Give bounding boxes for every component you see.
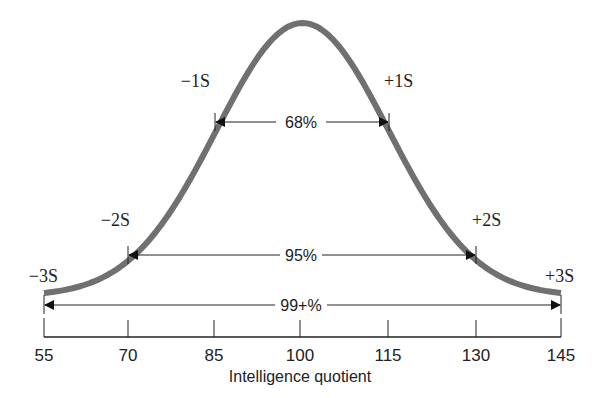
interval-99-label: 99+% xyxy=(280,297,321,314)
x-tick-130: 130 xyxy=(462,346,490,365)
interval-68: 68% xyxy=(215,113,389,131)
x-tick-85: 85 xyxy=(205,346,224,365)
interval-95: 95% xyxy=(128,246,476,264)
x-axis-label: Intelligence quotient xyxy=(229,368,372,385)
sd-label-plus-2: +2S xyxy=(472,210,501,230)
chart-canvas: −1S +1S −2S +2S −3S +3S 68% 95% 99+% xyxy=(0,0,607,398)
interval-99: 99+% xyxy=(44,295,561,314)
sd-label-minus-3: −3S xyxy=(29,266,58,286)
x-tick-55: 55 xyxy=(35,346,54,365)
x-tick-100: 100 xyxy=(286,346,314,365)
sd-label-plus-3: +3S xyxy=(545,266,574,286)
x-tick-115: 115 xyxy=(374,346,401,365)
interval-95-label: 95% xyxy=(285,247,317,264)
sd-label-minus-2: −2S xyxy=(101,210,130,230)
x-tick-70: 70 xyxy=(119,346,138,365)
x-axis: 55 70 85 100 115 130 145 Intelligence qu… xyxy=(35,318,576,385)
x-tick-145: 145 xyxy=(547,346,575,365)
interval-68-label: 68% xyxy=(285,114,317,131)
iq-normal-distribution-chart: −1S +1S −2S +2S −3S +3S 68% 95% 99+% xyxy=(0,0,607,398)
sd-label-plus-1: +1S xyxy=(384,71,413,91)
sd-label-minus-1: −1S xyxy=(181,71,210,91)
